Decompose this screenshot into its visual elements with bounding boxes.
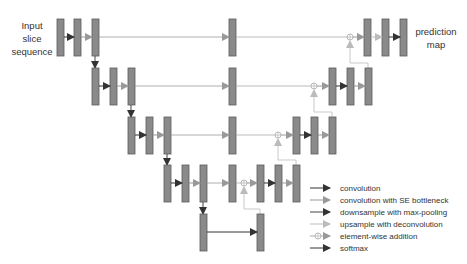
svg-text:softmax: softmax <box>340 244 368 253</box>
input-label: Input slice sequence <box>11 20 52 57</box>
legend: convolution convolution with SE bottlene… <box>310 184 450 253</box>
svg-text:slice: slice <box>22 33 41 44</box>
legend-item-se-convolution: convolution with SE bottleneck <box>310 196 450 205</box>
svg-text:convolution: convolution <box>340 184 380 193</box>
svg-text:element-wise addition: element-wise addition <box>340 232 417 241</box>
svg-text:sequence: sequence <box>11 46 52 57</box>
svg-text:Input: Input <box>21 20 42 31</box>
legend-item-upsample: upsample with deconvolution <box>310 220 443 229</box>
unet-architecture-diagram: Input slice sequence prediction map <box>0 0 467 264</box>
row-4 <box>164 165 300 214</box>
row-3 <box>128 117 336 165</box>
svg-text:upsample with deconvolution: upsample with deconvolution <box>340 220 443 229</box>
svg-text:map: map <box>427 39 445 50</box>
svg-text:prediction: prediction <box>415 26 456 37</box>
row-2 <box>92 68 372 117</box>
legend-item-convolution: convolution <box>310 184 380 193</box>
row-1 <box>57 19 407 68</box>
output-label: prediction map <box>415 26 456 50</box>
svg-text:downsample with max-pooling: downsample with max-pooling <box>340 208 447 217</box>
legend-item-downsample: downsample with max-pooling <box>310 208 447 217</box>
legend-item-softmax: softmax <box>310 244 368 253</box>
legend-item-addition: element-wise addition <box>310 232 417 241</box>
row-5 <box>200 214 264 251</box>
svg-text:convolution with SE bottleneck: convolution with SE bottleneck <box>340 196 450 205</box>
